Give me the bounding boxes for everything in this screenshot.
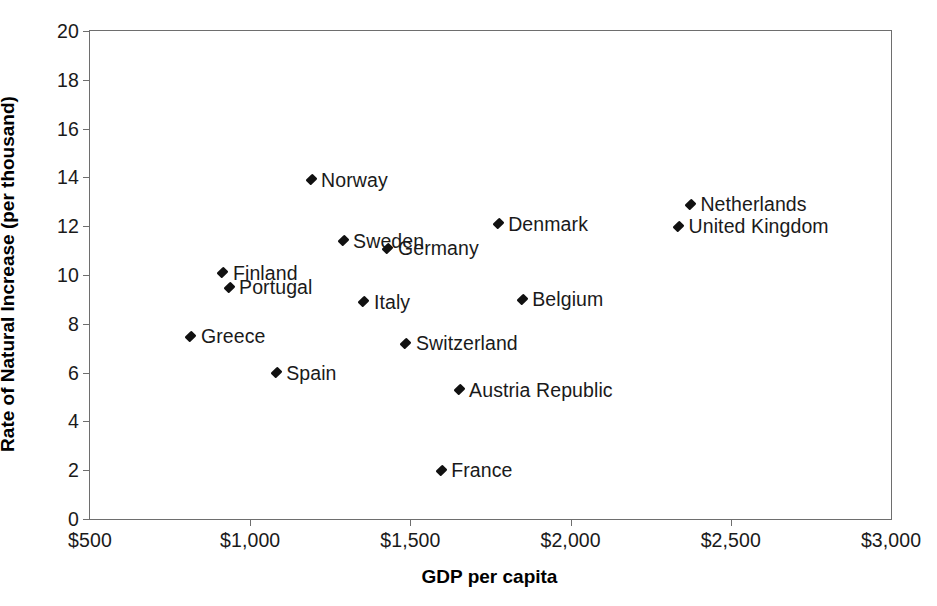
data-point-marker — [337, 235, 349, 247]
data-point-marker — [453, 384, 465, 396]
y-axis-tick-label: 4 — [68, 410, 79, 433]
y-axis-title: Rate of Natural Increase (per thousand) — [0, 96, 19, 452]
x-axis-title: GDP per capita — [89, 566, 890, 588]
data-point-marker — [435, 464, 447, 476]
y-axis-tick-label: 14 — [57, 166, 79, 189]
data-point-marker — [684, 198, 696, 210]
data-point-label: Denmark — [508, 212, 588, 235]
y-axis-tick-label: 0 — [68, 508, 79, 531]
y-axis-tick-label: 12 — [57, 215, 79, 238]
x-axis-tick — [571, 519, 572, 526]
data-point-label: Switzerland — [416, 332, 518, 355]
data-point-marker — [270, 367, 282, 379]
data-point-label: Austria Republic — [469, 378, 613, 401]
y-axis-tick-label: 16 — [57, 117, 79, 140]
data-point-marker — [400, 337, 412, 349]
data-point-label: United Kingdom — [689, 215, 829, 238]
y-axis-tick — [83, 177, 90, 178]
y-axis-tick — [83, 129, 90, 130]
y-axis-tick — [83, 373, 90, 374]
y-axis-tick — [83, 226, 90, 227]
y-axis-title-container: Rate of Natural Increase (per thousand) — [0, 30, 34, 518]
y-axis-tick-label: 20 — [57, 20, 79, 43]
y-axis-tick-label: 2 — [68, 459, 79, 482]
y-axis-tick — [83, 324, 90, 325]
data-point-label: Greece — [201, 325, 266, 348]
y-axis-tick — [83, 80, 90, 81]
x-axis-tick-label: $3,000 — [861, 529, 921, 552]
x-axis-tick-label: $1,500 — [380, 529, 440, 552]
data-point-marker — [217, 267, 229, 279]
data-point-marker — [673, 220, 685, 232]
data-point-label: France — [451, 459, 512, 482]
data-point-marker — [358, 296, 370, 308]
y-axis-tick — [83, 421, 90, 422]
y-axis-tick — [83, 31, 90, 32]
data-point-marker — [516, 293, 528, 305]
y-axis-tick-label: 6 — [68, 361, 79, 384]
data-point-label: Italy — [374, 290, 410, 313]
x-axis-tick — [731, 519, 732, 526]
data-point-label: Norway — [321, 168, 388, 191]
data-point-marker — [305, 174, 317, 186]
x-axis-tick-label: $500 — [68, 529, 112, 552]
y-axis-tick — [83, 519, 90, 520]
data-point-label: Spain — [286, 361, 336, 384]
data-point-label: Germany — [398, 237, 479, 260]
y-axis-tick-label: 18 — [57, 68, 79, 91]
x-axis-tick-label: $2,500 — [701, 529, 761, 552]
data-point-label: Netherlands — [700, 193, 806, 216]
data-point-label: Belgium — [532, 288, 603, 311]
x-axis-tick — [410, 519, 411, 526]
x-axis-tick-label: $1,000 — [220, 529, 280, 552]
y-axis-tick-label: 8 — [68, 312, 79, 335]
data-point-marker — [492, 218, 504, 230]
y-axis-tick — [83, 275, 90, 276]
y-axis-tick-label: 10 — [57, 264, 79, 287]
data-point-label: Portugal — [239, 276, 312, 299]
data-point-marker — [185, 330, 197, 342]
y-axis-tick — [83, 470, 90, 471]
x-axis-tick — [250, 519, 251, 526]
scatter-chart-figure: Rate of Natural Increase (per thousand) … — [0, 0, 937, 606]
x-axis-tick-label: $2,000 — [540, 529, 600, 552]
plot-area: 02468101214161820 $500$1,000$1,500$2,000… — [89, 30, 892, 520]
